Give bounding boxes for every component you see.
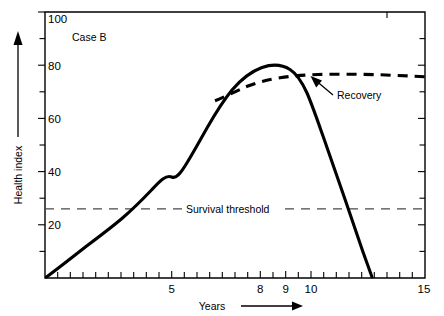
series-recovery [215,74,425,101]
y-tick-label-40: 40 [48,166,61,178]
y-axis-ticks-right [418,39,425,252]
case-label: Case B [72,31,106,43]
y-axis-arrow-icon [14,31,23,45]
plot-frame [45,12,425,278]
survival-threshold-label: Survival threshold [186,203,270,215]
x-tick-labels: 5 8 9 10 15 [168,283,430,295]
chart-figure: Survival threshold Recovery Case B 100 8… [0,0,444,316]
x-tick-label-8: 8 [257,283,263,295]
y-tick-label-20: 20 [48,219,61,231]
y-axis-title-group: Health index [12,31,24,204]
y-tick-label-100: 100 [48,13,67,25]
x-tick-label-5: 5 [168,283,174,295]
x-tick-label-10: 10 [305,283,318,295]
x-axis-arrow-icon [292,302,303,311]
recovery-label: Recovery [337,89,382,101]
y-axis-ticks [38,12,45,251]
y-tick-label-60: 60 [48,113,61,125]
x-axis-title: Years [199,300,225,312]
x-axis-title-group: Years [199,300,303,312]
y-axis-title: Health index [12,145,24,204]
x-tick-label-9: 9 [282,283,288,295]
x-axis-ticks [58,271,413,278]
series-health-index [47,65,373,277]
recovery-pointer [311,76,334,95]
x-tick-label-15: 15 [418,283,431,295]
y-tick-label-80: 80 [48,60,61,72]
y-tick-labels: 100 80 60 40 20 [48,13,67,231]
recovery-arrow-head [311,76,323,87]
chart-svg: Survival threshold Recovery Case B 100 8… [0,0,444,316]
